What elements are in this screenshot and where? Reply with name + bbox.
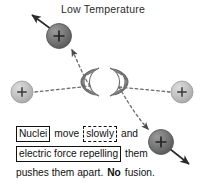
nucleus-upper-left [47, 24, 72, 49]
trajectory-right-incoming [119, 87, 170, 92]
caption-line1-mid: move [54, 128, 79, 140]
caption-line3-before: pushes them apart. [16, 167, 103, 179]
trajectory-lower-right-deflected [119, 87, 148, 129]
highlight-slowly: slowly [83, 126, 117, 142]
caption-line3-after: fusion. [125, 167, 155, 179]
highlight-nuclei: Nuclei [16, 126, 50, 142]
caption-line-2: electric force repellingthem [14, 144, 194, 164]
caption-line-1: Nucleimoveslowlyand [14, 124, 194, 144]
trajectory-left-incoming [35, 86, 90, 92]
caption-line2-end: them [125, 148, 148, 160]
highlight-electric-force-repelling: electric force repelling [16, 146, 121, 162]
caption-line1-end: and [121, 128, 138, 140]
caption-block: Nucleimoveslowlyand electric force repel… [14, 124, 194, 183]
velocity-arrow-upper-left [32, 15, 51, 29]
caption-line-3: pushes them apart.Nofusion. [14, 163, 194, 183]
caption-emphasis-no: No [107, 167, 121, 179]
nucleus-left [11, 81, 33, 103]
repulsion-wave-left [81, 68, 99, 96]
diagram-page: Low Temperature [0, 0, 206, 195]
repulsion-wave-right [110, 68, 128, 96]
nucleus-right [171, 81, 193, 103]
